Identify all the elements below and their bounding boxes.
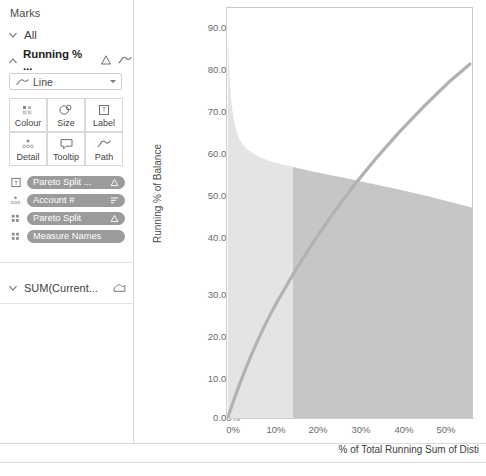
x-axis-tick: 0% <box>213 424 253 435</box>
colour-swatches-icon <box>9 212 22 224</box>
pill-measure-names[interactable]: Measure Names <box>27 230 125 243</box>
delta-icon <box>110 214 119 223</box>
delta-icon <box>110 178 119 187</box>
marks-shelf-buttons: Colour Size T Label <box>9 98 123 167</box>
colour-swatches-icon <box>21 103 35 117</box>
chevron-down-icon <box>110 80 116 83</box>
area-chart-icon <box>113 282 126 294</box>
shelf-label: Detail <box>16 153 39 162</box>
panel-divider <box>0 262 134 263</box>
panel-divider <box>0 303 134 304</box>
marks-panel: Marks All Running % ... Line <box>0 0 134 444</box>
shelf-label: Path <box>95 153 114 162</box>
size-circles-icon <box>58 103 74 117</box>
y-axis-line <box>226 7 227 419</box>
detail-dots-icon <box>21 137 35 151</box>
colour-swatches-icon <box>9 230 22 242</box>
x-axis-tick: 50% <box>426 424 466 435</box>
x-axis-tick: 40% <box>384 424 424 435</box>
path-shelf-button[interactable]: Path <box>85 132 123 166</box>
chart-region: Running % of Balance 90.00% 80.00% 70.00… <box>134 0 486 476</box>
pill-account-number[interactable]: Account # <box>27 194 125 207</box>
shelf-label: Tooltip <box>53 153 79 162</box>
marks-pill-row[interactable]: Measure Names <box>9 229 125 243</box>
pill-pareto-split-ellipsis[interactable]: Pareto Split ... <box>27 176 125 189</box>
plot-svg <box>227 8 473 418</box>
label-text-icon: T <box>97 103 111 117</box>
svg-text:T: T <box>14 179 18 185</box>
mark-type-value: Line <box>33 76 53 88</box>
line-chart-icon <box>118 54 130 66</box>
plot-area[interactable] <box>227 7 473 418</box>
pill-label: Measure Names <box>33 231 119 241</box>
svg-text:T: T <box>102 106 106 113</box>
shelf-label: Colour <box>15 119 42 128</box>
pill-label: Pareto Split <box>33 213 110 223</box>
marks-card-running-pct[interactable]: Running % ... <box>8 51 130 69</box>
chevron-down-icon <box>8 283 17 292</box>
pill-label: Pareto Split ... <box>33 177 110 187</box>
x-axis-tick: 30% <box>341 424 381 435</box>
delta-icon <box>100 54 112 66</box>
shelf-label: Label <box>93 119 115 128</box>
shelf-label: Size <box>57 119 75 128</box>
tooltip-bubble-icon <box>59 137 74 151</box>
x-axis-line <box>226 418 474 419</box>
colour-shelf-button[interactable]: Colour <box>9 98 47 132</box>
marks-pill-row[interactable]: T Pareto Split ... <box>9 175 125 189</box>
marks-panel-title: Marks <box>10 7 40 19</box>
chart-bottom-divider <box>0 443 486 444</box>
area-series-dark <box>293 167 473 418</box>
detail-dots-icon <box>9 194 22 206</box>
chevron-up-icon <box>8 56 17 65</box>
size-shelf-button[interactable]: Size <box>47 98 85 132</box>
label-text-icon: T <box>9 176 22 188</box>
pill-label: Account # <box>33 195 110 205</box>
x-axis-tick: 10% <box>256 424 296 435</box>
x-axis-tick: 20% <box>298 424 338 435</box>
tooltip-shelf-button[interactable]: Tooltip <box>47 132 85 166</box>
marks-card-sum-label: SUM(Current... <box>24 282 106 294</box>
marks-card-label: Running % ... <box>23 48 94 72</box>
marks-card-sum-current[interactable]: SUM(Current... <box>8 280 126 295</box>
tableau-worksheet: Marks All Running % ... Line <box>0 0 486 476</box>
marks-pill-row[interactable]: Account # <box>9 193 125 207</box>
pill-pareto-split[interactable]: Pareto Split <box>27 212 125 225</box>
x-axis-title: % of Total Running Sum of Disti <box>254 444 479 455</box>
worksheet-bottom-divider <box>0 462 486 463</box>
marks-card-all-label: All <box>24 29 37 41</box>
mark-type-dropdown[interactable]: Line <box>9 73 122 90</box>
line-chart-icon <box>16 77 28 87</box>
marks-card-all[interactable]: All <box>8 26 126 43</box>
path-line-icon <box>97 137 111 151</box>
marks-pill-row[interactable]: Pareto Split <box>9 211 125 225</box>
sort-icon <box>110 196 119 205</box>
y-axis-title: Running % of Balance <box>152 139 163 249</box>
chevron-down-icon <box>8 30 17 39</box>
detail-shelf-button[interactable]: Detail <box>9 132 47 166</box>
label-shelf-button[interactable]: T Label <box>85 98 123 132</box>
